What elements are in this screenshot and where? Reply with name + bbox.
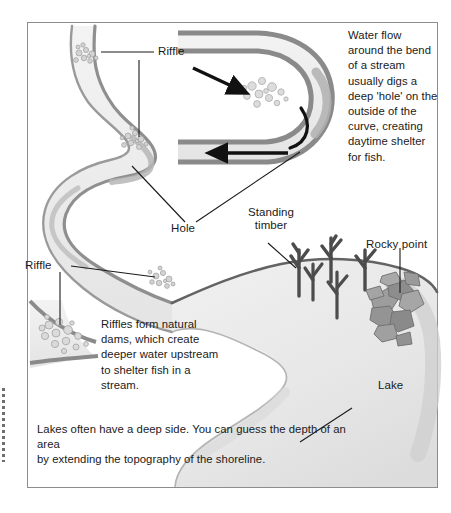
figure-canvas: Riffle Riffle Hole Standing timber Rocky… — [0, 0, 451, 513]
label-standing-timber: Standing timber — [239, 206, 303, 232]
callout-water-flow: Water flow around the bend of a stream u… — [348, 28, 446, 165]
stream-bend-inset — [178, 32, 332, 162]
gravel-pebbles-icon-inset — [241, 77, 288, 107]
arrow-right-icon — [193, 68, 238, 89]
gravel-pebbles-icon-bottom — [148, 266, 175, 288]
meandering-stream — [43, 26, 175, 332]
label-rocky-point: Rocky point — [366, 238, 427, 251]
label-hole: Hole — [171, 222, 195, 235]
label-riffle-bottom: Riffle — [25, 259, 52, 272]
leader-hole-stream — [132, 166, 185, 222]
callout-lakes: Lakes often have a deep side. You can gu… — [37, 422, 367, 468]
stream-water-body — [43, 26, 172, 332]
riffle-inset — [30, 300, 98, 368]
label-lake: Lake — [378, 379, 403, 392]
label-riffle-top: Riffle — [158, 45, 185, 58]
callout-riffles: Riffles form natural dams, which create … — [101, 317, 241, 393]
